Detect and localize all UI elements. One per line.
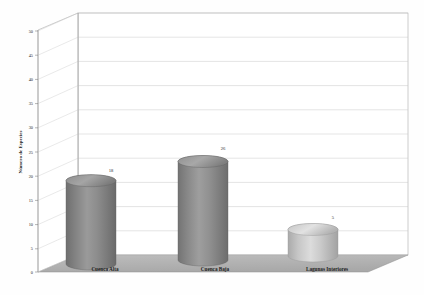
bar-top-cap: [288, 224, 338, 236]
bar-top-cap: [66, 175, 116, 187]
bar-value-label: 18: [109, 168, 114, 173]
bar-cuenca-baja[interactable]: 26: [178, 146, 228, 266]
category-label-lagunas-interiores: Lagunas Interiores: [306, 266, 348, 272]
y-tick-label: 10: [29, 222, 33, 227]
y-tick-label: 5: [31, 246, 33, 251]
y-tick-label: 30: [29, 125, 33, 130]
y-tick-label: 45: [29, 53, 33, 58]
y-tick-label: 35: [29, 101, 33, 106]
bar-body: [178, 156, 228, 267]
y-tick-label: 20: [29, 174, 33, 179]
y-tick-label: 25: [29, 150, 33, 155]
bar-value-label: 26: [221, 146, 226, 151]
y-tick-label: 0: [31, 270, 33, 275]
category-label-cuenca-baja: Cuenca Baja: [201, 266, 230, 272]
category-label-cuenca-alta: Cuenca Alta: [91, 266, 119, 272]
y-axis-title: Número de Especies: [18, 130, 23, 173]
y-axis-ticks: [35, 31, 38, 272]
bar-chart-3d: 0 5 10 15 20 25 30 35 40 45 50 Número de…: [0, 0, 424, 295]
bar-top-cap: [178, 156, 228, 168]
chart-figure: 0 5 10 15 20 25 30 35 40 45 50 Número de…: [0, 0, 424, 295]
y-axis-tick-labels: 0 5 10 15 20 25 30 35 40 45 50: [29, 29, 33, 275]
y-tick-label: 50: [29, 29, 33, 34]
y-axis-title-text: Número de Especies: [18, 130, 23, 173]
y-tick-label: 15: [29, 198, 33, 203]
bar-cuenca-alta[interactable]: 18: [66, 168, 116, 270]
bar-body: [66, 175, 116, 270]
y-tick-label: 40: [29, 77, 33, 82]
